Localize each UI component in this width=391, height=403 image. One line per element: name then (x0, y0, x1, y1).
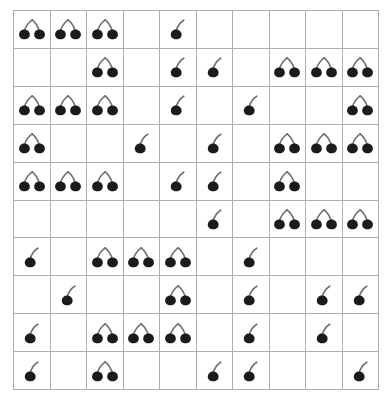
grid-cell-empty (124, 163, 161, 201)
grid-cell-cherry-pair (270, 163, 307, 201)
cell-content (343, 238, 379, 275)
grid-cell-cherry-pair (343, 49, 380, 87)
cell-content (160, 201, 196, 238)
cell-content (306, 352, 342, 389)
cherry-single-icon (23, 322, 40, 344)
grid-cell-empty (51, 201, 88, 239)
cell-content (14, 49, 50, 86)
grid-cell-single-cherry (343, 352, 380, 390)
cherry-pair-icon (90, 322, 120, 344)
grid-cell-empty (306, 163, 343, 201)
grid-cell-single-cherry (197, 49, 234, 87)
cell-content (124, 201, 160, 238)
grid-cell-single-cherry (160, 11, 197, 49)
grid-cell-empty (343, 163, 380, 201)
cell-content (306, 314, 342, 351)
cell-content (270, 238, 306, 275)
cherry-pair-icon (53, 94, 83, 116)
grid-cell-empty (343, 314, 380, 352)
cell-content (160, 163, 196, 200)
grid-cell-empty (270, 314, 307, 352)
cell-content (14, 201, 50, 238)
cell-content (87, 163, 123, 200)
cell-content (124, 87, 160, 124)
cherry-single-icon (169, 56, 186, 78)
cell-content (343, 276, 379, 313)
cherry-single-icon (169, 94, 186, 116)
grid-cell-empty (270, 87, 307, 125)
cell-content (306, 125, 342, 162)
cell-content (233, 163, 269, 200)
grid-cell-empty (87, 201, 124, 239)
cherry-pair-icon (53, 18, 83, 40)
grid-cell-empty (233, 49, 270, 87)
cell-content (343, 201, 379, 238)
cell-content (270, 314, 306, 351)
grid-cell-cherry-pair (14, 125, 51, 163)
cell-content (14, 276, 50, 313)
cell-content (197, 352, 233, 389)
grid-cell-single-cherry (160, 163, 197, 201)
cell-content (87, 87, 123, 124)
cell-content (197, 87, 233, 124)
cell-content (343, 163, 379, 200)
cell-content (343, 314, 379, 351)
cell-content (14, 163, 50, 200)
cell-content (343, 11, 379, 48)
cell-content (87, 201, 123, 238)
cell-content (160, 49, 196, 86)
grid-cell-empty (270, 352, 307, 390)
cherry-single-icon (352, 284, 369, 306)
cell-content (197, 49, 233, 86)
cell-content (51, 276, 87, 313)
cell-content (233, 201, 269, 238)
cherry-count-grid-panel (0, 0, 391, 403)
grid-cell-cherry-pair (124, 238, 161, 276)
grid-cell-empty (197, 87, 234, 125)
cherry-single-icon (169, 18, 186, 40)
cherry-single-icon (352, 360, 369, 382)
cherry-pair-icon (272, 170, 302, 192)
cell-content (14, 125, 50, 162)
grid-cell-cherry-pair (87, 314, 124, 352)
cherry-single-icon (242, 322, 259, 344)
grid-cell-single-cherry (197, 201, 234, 239)
grid-cell-empty (306, 238, 343, 276)
grid-cell-empty (14, 276, 51, 314)
grid-cell-empty (51, 125, 88, 163)
grid-cell-single-cherry (233, 87, 270, 125)
cherry-pair-icon (345, 208, 375, 230)
cell-content (197, 238, 233, 275)
cherry-pair-icon (17, 94, 47, 116)
cell-content (51, 11, 87, 48)
cell-content (14, 11, 50, 48)
grid-cell-single-cherry (306, 314, 343, 352)
grid-cell-cherry-pair (87, 352, 124, 390)
cherry-single-icon (206, 56, 223, 78)
cherry-pair-icon (309, 208, 339, 230)
grid-cell-cherry-pair (51, 87, 88, 125)
cherry-single-icon (206, 208, 223, 230)
cell-content (160, 314, 196, 351)
cell-content (124, 238, 160, 275)
cell-content (160, 125, 196, 162)
grid-cell-single-cherry (14, 352, 51, 390)
grid-cell-cherry-pair (160, 276, 197, 314)
grid-cell-single-cherry (14, 314, 51, 352)
cherry-pair-icon (53, 170, 83, 192)
grid-cell-single-cherry (51, 276, 88, 314)
cell-content (87, 238, 123, 275)
cherry-pair-icon (272, 132, 302, 154)
cherry-single-icon (23, 360, 40, 382)
cell-content (270, 201, 306, 238)
cell-content (124, 352, 160, 389)
grid-cell-cherry-pair (51, 163, 88, 201)
grid-cell-cherry-pair (87, 87, 124, 125)
cell-content (233, 314, 269, 351)
cell-content (343, 87, 379, 124)
cell-content (233, 238, 269, 275)
grid-cell-cherry-pair (306, 201, 343, 239)
cell-content (51, 314, 87, 351)
grid-cell-single-cherry (233, 276, 270, 314)
grid-cell-single-cherry (233, 314, 270, 352)
